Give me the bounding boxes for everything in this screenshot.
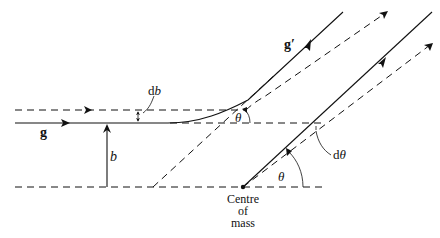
diagram-canvas: g g′ b db θ θ dθ Centre of mass — [0, 0, 440, 238]
trajectory-g — [15, 12, 343, 123]
centre-of-mass-dot — [241, 185, 245, 189]
label-b: b — [110, 149, 117, 164]
asymptote-dashed — [153, 72, 278, 187]
deflected-dashed-arrow-icon — [379, 11, 388, 19]
dtheta-leader-line — [316, 131, 331, 155]
label-dtheta: dθ — [333, 147, 347, 162]
centre-of-mass-dashed-ray — [243, 45, 430, 187]
label-theta-lower: θ — [278, 169, 285, 184]
dashed-ray-arrow-icon — [84, 106, 92, 114]
scattering-diagram: g g′ b db θ θ dθ Centre of mass — [0, 0, 440, 238]
theta-lower-arc — [289, 152, 303, 187]
deflected-dashed-ray — [246, 14, 384, 110]
label-g: g — [40, 125, 47, 140]
g-prime-arrow-icon — [304, 39, 311, 51]
label-g-prime: g′ — [284, 37, 295, 52]
label-mass: mass — [231, 216, 255, 230]
label-db: db — [148, 83, 162, 98]
label-theta-upper: θ — [235, 110, 242, 125]
theta-upper-arrow-icon — [242, 107, 247, 113]
com-dashed-arrow-icon — [424, 43, 433, 51]
